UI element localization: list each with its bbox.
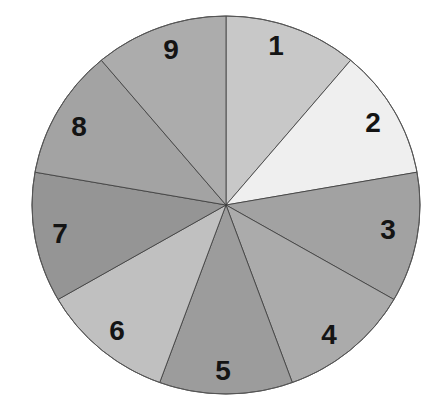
slice-label-3: 3 <box>380 214 396 245</box>
slice-label-2: 2 <box>365 107 381 138</box>
slice-label-5: 5 <box>215 355 231 386</box>
pie-slices <box>32 16 420 394</box>
pie-chart: 123456789 <box>0 0 435 414</box>
slice-label-9: 9 <box>163 34 179 65</box>
slice-label-6: 6 <box>109 315 125 346</box>
slice-label-8: 8 <box>71 111 87 142</box>
slice-label-1: 1 <box>268 30 284 61</box>
slice-label-4: 4 <box>321 319 337 350</box>
slice-label-7: 7 <box>52 218 68 249</box>
